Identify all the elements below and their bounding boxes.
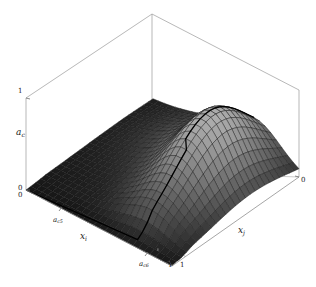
plot-canvas — [0, 0, 316, 287]
xi-axis-tick-ac6: ac6 — [139, 261, 149, 269]
xj-axis-label-subscript: j — [243, 229, 245, 236]
xi-axis-origin-tick: 0 — [18, 192, 22, 199]
z-axis-label-subscript: c — [21, 131, 24, 138]
xi-tick-ac5-subscript: c5 — [57, 219, 63, 224]
xi-axis-tick-one: 1 — [168, 262, 172, 269]
xi-axis-label: xi — [80, 232, 87, 242]
z-axis-label: ac — [16, 128, 25, 138]
box-edge-top-left — [26, 14, 152, 98]
xi-tick-ac6-subscript: c6 — [143, 263, 149, 268]
xj-axis-tick-zero: 0 — [301, 177, 305, 184]
xj-axis-label: xj — [238, 226, 245, 236]
xi-axis-label-subscript: i — [85, 235, 87, 242]
xi-axis-tick-ac5: ac5 — [53, 217, 63, 225]
xj-axis-tick-one: 1 — [180, 262, 184, 269]
box-edge-top-right — [152, 14, 299, 90]
tick-z-top — [26, 98, 30, 99]
surface-plot-figure: 1 0 0 ac ac5 xi ac6 1 1 xj 0 — [0, 0, 316, 287]
z-axis-tick-top: 1 — [18, 88, 22, 95]
mesh-surface — [26, 99, 299, 266]
